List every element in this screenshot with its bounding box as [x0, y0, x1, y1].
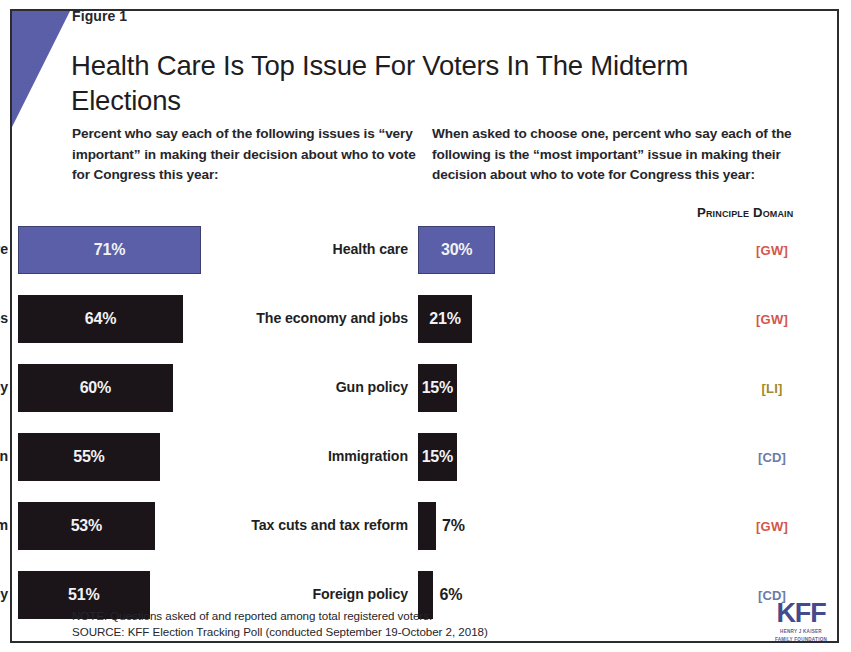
bar-value-label: 60% — [18, 379, 173, 397]
kff-logo-subtitle-line2: FAMILY FOUNDATION — [762, 637, 840, 643]
kff-wordmark: KFF — [762, 600, 840, 627]
bar-value-label: 53% — [18, 517, 155, 535]
kff-logo-subtitle-line1: HENRY J KAISER — [762, 629, 840, 635]
principle-domain-tag: [GW] — [756, 519, 788, 534]
principle-domain-row: [GW] — [697, 226, 847, 274]
right-panel-subhead: When asked to choose one, percent who sa… — [432, 124, 832, 186]
bar-value-label: 64% — [18, 310, 183, 328]
bar-category-label: Health care — [0, 241, 8, 258]
chart-very-important: Health care71%The economy and jobs64%Gun… — [18, 226, 418, 640]
figure-label: Figure 1 — [72, 8, 127, 24]
principle-domain-tag: [LI] — [761, 381, 782, 396]
bar-category-label: Immigration — [238, 448, 408, 465]
bar-category-label: Foreign policy — [238, 586, 408, 603]
bar-value-label: 7% — [442, 517, 465, 535]
bar-category-label: Tax cuts and tax reform — [0, 517, 8, 534]
principle-domain-tag: [CD] — [758, 450, 786, 465]
chart-most-important: Health care30%The economy and jobs21%Gun… — [418, 226, 708, 640]
bar-value-label: 6% — [439, 586, 462, 604]
principle-domain-header: Principle Domain — [697, 205, 847, 220]
bar-track: 15% — [418, 433, 708, 481]
note-line: NOTE: Questions asked of and reported am… — [72, 608, 488, 624]
bar-row: Gun policy15% — [418, 364, 708, 412]
bar-category-label: The economy and jobs — [0, 310, 8, 327]
principle-domain-column: [GW][GW][LI][CD][GW][CD] — [697, 226, 847, 640]
bar-track: 30% — [418, 226, 708, 274]
bar-row: Health care30% — [418, 226, 708, 274]
bar-category-label: Health care — [238, 241, 408, 258]
bar-row: Immigration15% — [418, 433, 708, 481]
bar-value-label: 21% — [418, 310, 472, 328]
footnotes: NOTE: Questions asked of and reported am… — [72, 608, 488, 641]
principle-domain-tag: [GW] — [756, 312, 788, 327]
bar-value-label: 30% — [418, 241, 495, 259]
bar-row: The economy and jobs21% — [418, 295, 708, 343]
principle-domain-row: [GW] — [697, 295, 847, 343]
bar-category-label: The economy and jobs — [238, 310, 408, 327]
bar-track: 15% — [418, 364, 708, 412]
bar-category-label: Immigration — [0, 448, 8, 465]
bar-track: 7% — [418, 502, 708, 550]
principle-domain-row: [CD] — [697, 433, 847, 481]
bar-category-label: Gun policy — [0, 379, 8, 396]
bar-track: 21% — [418, 295, 708, 343]
bar-category-label: Foreign policy — [0, 586, 8, 603]
left-panel-subhead: Percent who say each of the following is… — [72, 124, 432, 186]
kff-logo: KFF HENRY J KAISER FAMILY FOUNDATION — [762, 600, 840, 643]
figure-title: Health Care Is Top Issue For Voters In T… — [71, 49, 751, 119]
source-line: SOURCE: KFF Election Tracking Poll (cond… — [72, 624, 488, 640]
bar-value-label: 15% — [418, 448, 457, 466]
bar-row: Tax cuts and tax reform7% — [418, 502, 708, 550]
principle-domain-tag: [GW] — [756, 243, 788, 258]
bar — [418, 502, 436, 550]
bar-value-label: 15% — [418, 379, 457, 397]
figure-root: Figure 1 Health Care Is Top Issue For Vo… — [0, 0, 851, 652]
principle-domain-row: [GW] — [697, 502, 847, 550]
bar-value-label: 55% — [18, 448, 160, 466]
bar-category-label: Gun policy — [238, 379, 408, 396]
bar-value-label: 71% — [18, 241, 201, 259]
bar-value-label: 51% — [18, 586, 150, 604]
bar-category-label: Tax cuts and tax reform — [238, 517, 408, 534]
principle-domain-row: [LI] — [697, 364, 847, 412]
